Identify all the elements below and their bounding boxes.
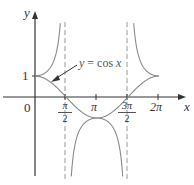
- y-axis-label: y: [24, 6, 30, 19]
- sec-branch-right: [134, 23, 159, 76]
- y-tick-1-label: 1: [22, 69, 29, 82]
- annotation-arrow-icon: [51, 75, 60, 82]
- sec-branch-middle: [71, 118, 122, 176]
- graph-canvas: [0, 0, 194, 185]
- tick-label-3pi-over-2: 3π 2: [118, 101, 136, 124]
- y-axis-arrow-icon: [32, 11, 38, 19]
- x-axis-label: x: [184, 100, 190, 113]
- sec-branch-left: [35, 23, 60, 76]
- curve-annotation-label: y = cos x: [79, 57, 121, 69]
- tick-label-2pi: 2π: [150, 101, 162, 113]
- tick-label-pi-over-2: π 2: [58, 101, 72, 124]
- origin-label: 0: [24, 101, 31, 114]
- tick-label-pi: π: [91, 101, 97, 113]
